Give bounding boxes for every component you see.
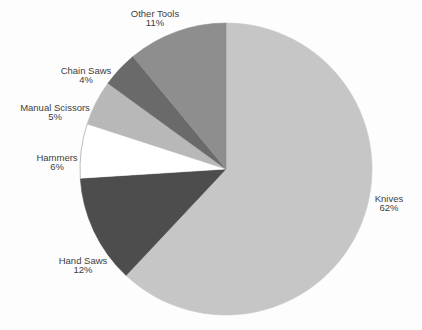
slice-label-percent: 62%: [379, 202, 399, 213]
slice-label-chain-saws: Chain Saws4%: [61, 65, 112, 85]
slice-label-percent: 4%: [79, 74, 93, 85]
pie-chart-figure: Knives62%Hand Saws12%Hammers6%Manual Sci…: [0, 0, 422, 330]
slice-label-hand-saws: Hand Saws12%: [59, 255, 108, 275]
slice-label-percent: 6%: [50, 161, 64, 172]
slice-label-knives: Knives62%: [375, 193, 404, 213]
slice-label-manual-scissors: Manual Scissors5%: [20, 102, 90, 122]
slice-label-hammers: Hammers6%: [36, 152, 77, 172]
slice-label-other-tools: Other Tools11%: [131, 8, 180, 28]
slice-label-percent: 12%: [73, 264, 93, 275]
slice-label-percent: 11%: [146, 17, 165, 28]
pie-chart: Knives62%Hand Saws12%Hammers6%Manual Sci…: [0, 0, 422, 330]
slice-label-percent: 5%: [48, 111, 62, 122]
